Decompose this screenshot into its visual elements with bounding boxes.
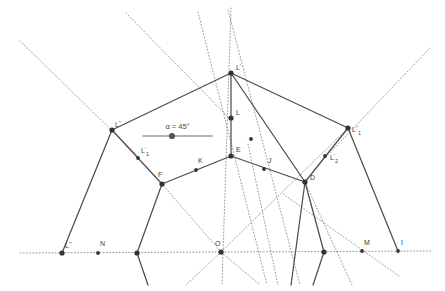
dotted-O-downleft (186, 252, 221, 285)
label-Lprime2: L'2 (330, 153, 338, 164)
slider-handle[interactable] (169, 133, 175, 139)
point-Ldprime1[interactable] (345, 125, 350, 130)
label-Lprime: L' (236, 63, 241, 71)
label-K: K (198, 157, 203, 164)
point-I[interactable] (396, 249, 400, 253)
point-Lprime1[interactable] (136, 156, 140, 160)
alpha-slider[interactable]: α = 45° (143, 122, 212, 139)
label-N: N (100, 240, 105, 247)
point-Ltprime[interactable] (59, 250, 64, 255)
point-mid-right[interactable] (249, 137, 253, 141)
edge-Ldprime-Ltprime (62, 130, 112, 253)
label-J: J (268, 157, 272, 164)
label-O: O (215, 240, 221, 247)
label-Ldprime1: L''1 (352, 125, 361, 136)
point-axis-p1[interactable] (134, 250, 139, 255)
point-O[interactable] (218, 249, 223, 254)
point-N[interactable] (96, 251, 100, 255)
label-M: M (364, 239, 370, 246)
edge-Lprime-Ldprime1 (231, 73, 348, 128)
point-Lprime2[interactable] (323, 154, 327, 158)
label-F: F (158, 171, 162, 178)
dotted-right-diagonal (283, 194, 399, 276)
point-E[interactable] (228, 153, 233, 158)
dotted-vertical-through-O (222, 8, 231, 285)
geometry-svg: α = 45° L'LEL''L''1L'1L'2FKJDL'''NOMI (0, 0, 445, 291)
solid-polygon-edges (62, 73, 398, 285)
label-L: L (236, 109, 240, 116)
point-axis-p2[interactable] (321, 249, 326, 254)
point-Ldprime[interactable] (109, 127, 114, 132)
edge-axisp2-low (313, 252, 324, 285)
dotted-Lprime-steep (198, 12, 267, 285)
dotted-axis-horizontal (20, 251, 432, 253)
point-L[interactable] (228, 115, 233, 120)
dotted-left-steep-down (248, 144, 278, 285)
slider-value-label: α = 45° (165, 122, 189, 131)
edge-F-axisp1 (137, 184, 162, 253)
dotted-D-to-M-down (305, 182, 352, 285)
label-E: E (236, 146, 241, 153)
geometry-canvas: α = 45° L'LEL''L''1L'1L'2FKJDL'''NOMI (0, 0, 445, 291)
label-Ltprime: L''' (65, 241, 72, 249)
dotted-O-to-F-upleft (162, 184, 221, 252)
point-J[interactable] (262, 167, 266, 171)
point-M[interactable] (360, 249, 364, 253)
dotted-O-downright (221, 252, 260, 285)
label-Lprime1: L'1 (141, 146, 149, 157)
point-D[interactable] (302, 179, 307, 184)
construction-points (59, 70, 400, 255)
label-D: D (310, 174, 315, 181)
edge-Lprime-midright-D (231, 73, 305, 182)
point-K[interactable] (194, 168, 198, 172)
label-I: I (401, 239, 403, 246)
edge-D-lowleft (291, 182, 305, 285)
dotted-upper-mid-ray (126, 13, 231, 120)
point-F[interactable] (159, 181, 164, 186)
point-Lprime[interactable] (228, 70, 233, 75)
dotted-topright-to-Ldprime1 (321, 48, 430, 162)
edge-axisp1-low (137, 253, 148, 285)
dotted-construction-lines (20, 8, 432, 285)
edge-Ldprime1-I (348, 128, 398, 251)
